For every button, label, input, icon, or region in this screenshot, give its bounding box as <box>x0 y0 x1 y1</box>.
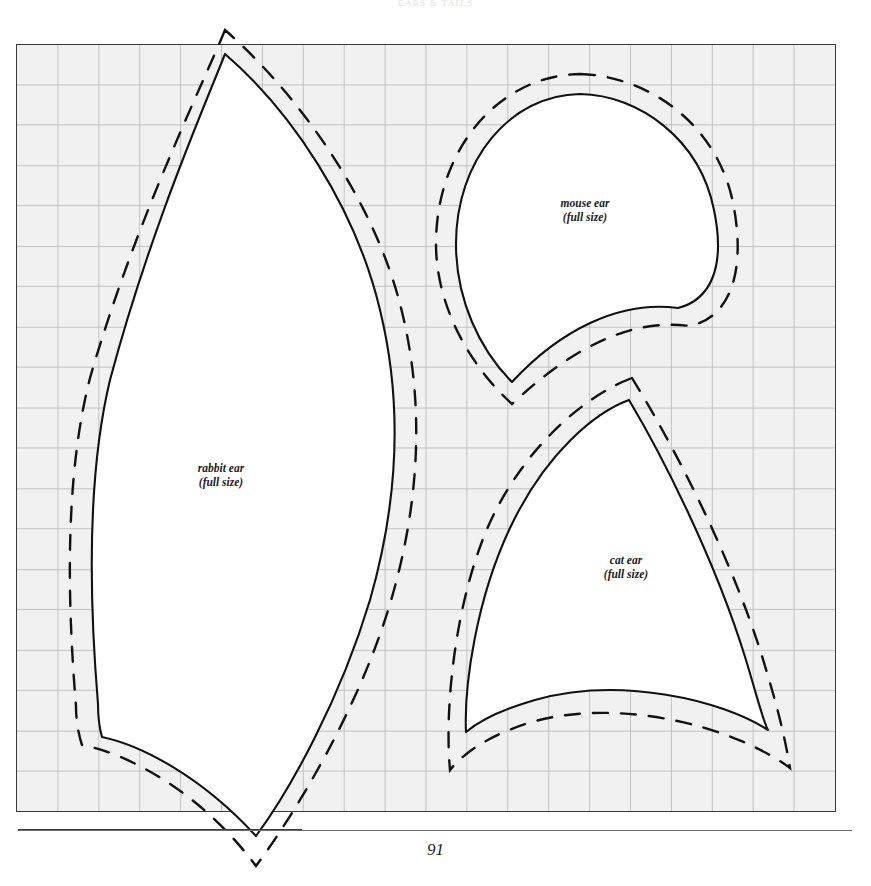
page-number: 91 <box>0 840 871 860</box>
mouse-ear-label-size: (full size) <box>525 210 645 224</box>
cat-ear-label-name: cat ear <box>610 554 642 566</box>
mouse-ear-label: mouse ear (full size) <box>525 196 645 224</box>
pattern-grid-panel <box>16 44 836 812</box>
mouse-ear-label-name: mouse ear <box>561 197 610 209</box>
grid-lines <box>17 45 835 811</box>
footer-rule-long <box>18 830 852 831</box>
rabbit-ear-label: rabbit ear (full size) <box>161 461 281 489</box>
rabbit-ear-label-size: (full size) <box>161 475 281 489</box>
cat-ear-label-size: (full size) <box>566 567 686 581</box>
pattern-page: EARS & TAILS <box>0 0 871 886</box>
footer-rule-short <box>18 829 302 830</box>
running-head: EARS & TAILS <box>0 0 871 7</box>
rabbit-ear-label-name: rabbit ear <box>198 462 244 474</box>
cat-ear-label: cat ear (full size) <box>566 553 686 581</box>
